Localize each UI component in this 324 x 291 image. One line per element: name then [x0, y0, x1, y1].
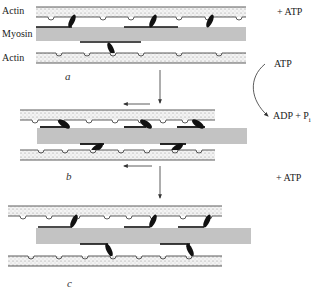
myosin-filament: [36, 227, 251, 244]
panel-b: [20, 110, 247, 160]
panel-label-a: a: [65, 70, 71, 82]
actin-filament-bottom: [36, 53, 246, 63]
reaction-step1-atp: + ATP: [277, 6, 302, 17]
panel-label-b: b: [66, 170, 72, 182]
hydrolysis-product-label: ADP + Pi: [273, 110, 311, 124]
actin-filament-bottom: [8, 256, 222, 266]
myosin-filament: [36, 26, 246, 42]
sliding-filament-diagram: [0, 0, 324, 291]
actin-filament-top: [36, 7, 246, 20]
panel-label-c: c: [67, 277, 72, 289]
actin-filament-top: [8, 206, 222, 219]
myosin-filament: [37, 127, 247, 144]
label-actin-top: Actin: [2, 5, 24, 16]
label-myosin: Myosin: [2, 28, 33, 39]
panel-a: [36, 7, 246, 63]
actin-filament-top: [20, 110, 215, 123]
label-actin-bottom: Actin: [2, 52, 24, 63]
reaction-step2-atp: + ATP: [276, 172, 301, 183]
panel-c: [8, 206, 251, 266]
hydrolysis-arrow: [253, 64, 268, 116]
hydrolysis-atp-label: ATP: [274, 58, 292, 69]
actin-filament-bottom: [20, 150, 215, 160]
